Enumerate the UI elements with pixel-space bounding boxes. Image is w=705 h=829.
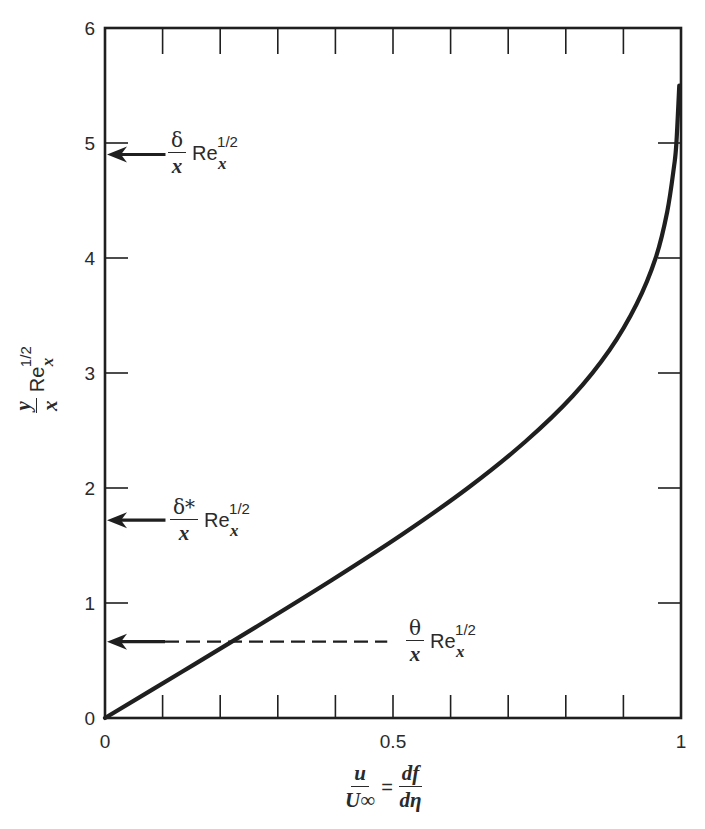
delta-sup: 1/2	[217, 133, 238, 150]
y-tick-label: 1	[84, 593, 95, 614]
x-axis-label-lhs: u U∞	[345, 763, 375, 811]
x-axis-label-equals: =	[381, 776, 393, 799]
theta-den: x	[410, 641, 421, 665]
theta-re-text: Re	[430, 630, 456, 652]
y-axis-label-re: Re 1/2 x	[26, 367, 49, 393]
delta-re-text: Re	[192, 142, 218, 164]
y-axis-label-den: x	[37, 401, 61, 412]
delta-star-annotation-label: δ* x Re 1/2 x	[170, 497, 230, 544]
theta-annotation-label: θ x Re 1/2 x	[406, 618, 456, 665]
x-axis-label: u U∞ = df dη	[345, 763, 422, 811]
x-axis-label-lhs-den: U∞	[345, 787, 375, 811]
y-tick-label: 3	[84, 363, 95, 384]
y-tick-label: 5	[84, 133, 95, 154]
y-axis-label-re-text: Re	[26, 367, 48, 393]
x-tick-label: 0	[100, 731, 111, 752]
y-tick-label: 0	[84, 708, 95, 729]
blasius-profile-curve	[105, 86, 679, 719]
delta-star-re: Re 1/2 x	[204, 509, 230, 532]
delta-star-num: δ*	[170, 497, 198, 520]
y-axis-label-num: y	[13, 398, 37, 413]
annotation-arrows	[107, 147, 387, 650]
delta-star-re-text: Re	[204, 509, 230, 531]
delta-fraction: δ x	[168, 130, 186, 177]
delta-star-den: x	[179, 520, 190, 544]
x-tick-label: 1	[676, 731, 687, 752]
x-axis-label-rhs: df dη	[399, 763, 423, 811]
delta-sub: x	[218, 154, 227, 174]
delta-star-fraction: δ* x	[170, 497, 198, 544]
delta-star-sup: 1/2	[229, 500, 250, 517]
theta-fraction: θ x	[406, 618, 424, 665]
y-axis-label-sub: x	[38, 358, 58, 367]
x-tick-label: 0.5	[380, 731, 406, 752]
x-axis-label-rhs-den: dη	[400, 787, 422, 811]
theta-num: θ	[406, 618, 424, 641]
y-tick-label: 2	[84, 478, 95, 499]
delta-annotation-label: δ x Re 1/2 x	[168, 130, 218, 177]
x-axis-label-lhs-num: u	[351, 763, 369, 787]
delta-den: x	[172, 153, 183, 177]
y-tick-label: 4	[84, 248, 95, 269]
x-axis-label-rhs-num: df	[399, 763, 423, 787]
y-tick-label: 6	[84, 18, 95, 39]
theta-sub: x	[456, 642, 465, 662]
y-axis-label-sup: 1/2	[17, 346, 34, 367]
delta-num: δ	[168, 130, 186, 153]
theta-sup: 1/2	[455, 621, 476, 638]
y-axis-label-fraction: y x	[13, 398, 61, 413]
chart: 012345600.51	[0, 0, 705, 829]
theta-re: Re 1/2 x	[430, 630, 456, 653]
delta-re: Re 1/2 x	[192, 142, 218, 165]
y-axis-label: y x Re 1/2 x	[7, 335, 67, 445]
data-series	[105, 86, 679, 719]
delta-star-sub: x	[230, 521, 239, 541]
